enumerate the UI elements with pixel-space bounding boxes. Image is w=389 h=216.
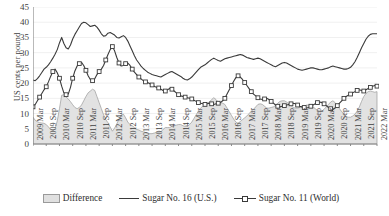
legend-item-difference[interactable]: Difference — [43, 193, 103, 203]
x-tick-2019-mar: 2019 Mar — [301, 108, 310, 148]
legend-label-sugar-no-16-us: Sugar No. 16 (U.S.) — [142, 193, 216, 203]
x-tick-2012-mar: 2012 Mar — [115, 108, 124, 148]
legend-label-difference: Difference — [63, 193, 103, 203]
legend-label-sugar-no-11-world: Sugar No. 11 (World) — [259, 193, 340, 203]
chart-legend: Difference Sugar No. 16 (U.S.) Sugar No.… — [0, 193, 382, 203]
legend-item-sugar-no-11-world[interactable]: Sugar No. 11 (World) — [234, 193, 340, 203]
x-tick-2018-mar: 2018 Mar — [274, 108, 283, 148]
x-tick-2010-mar: 2010 Mar — [62, 108, 71, 148]
line-marker-swatch-icon — [234, 195, 256, 202]
x-tick-2015-mar: 2015 Mar — [195, 108, 204, 148]
x-tick-2010-sep: 2010 Sep — [76, 108, 85, 148]
legend-item-sugar-no-16-us[interactable]: Sugar No. 16 (U.S.) — [119, 193, 216, 203]
x-tick-2012-sep: 2012 Sep — [129, 108, 138, 148]
x-tick-2009-sep: 2009 Sep — [49, 108, 58, 148]
x-tick-2011-sep: 2011 Sep — [102, 108, 111, 148]
x-tick-2020-mar: 2020 Mar — [327, 108, 336, 148]
x-tick-2021-sep: 2021 Sep — [367, 108, 376, 148]
x-tick-2016-mar: 2016 Mar — [221, 108, 230, 148]
x-tick-2017-mar: 2017 Mar — [248, 108, 257, 148]
x-tick-2016-sep: 2016 Sep — [234, 108, 243, 148]
x-tick-2021-mar: 2021 Mar — [354, 108, 363, 148]
x-tick-2011-mar: 2011 Mar — [89, 108, 98, 148]
x-tick-2015-sep: 2015 Sep — [208, 108, 217, 148]
x-tick-2009-mar: 2009 Mar — [36, 108, 45, 148]
x-tick-2013-sep: 2013 Sep — [155, 108, 164, 148]
x-tick-2020-sep: 2020 Sep — [340, 108, 349, 148]
area-swatch-icon — [43, 194, 60, 203]
x-tick-2014-mar: 2014 Mar — [168, 108, 177, 148]
x-tick-2019-sep: 2019 Sep — [314, 108, 323, 148]
line-swatch-icon — [119, 198, 139, 199]
x-tick-2022-mar: 2022 Mar — [380, 108, 389, 148]
x-tick-2017-sep: 2017 Sep — [261, 108, 270, 148]
x-tick-2018-sep: 2018 Sep — [287, 108, 296, 148]
x-tick-2013-mar: 2013 Mar — [142, 108, 151, 148]
x-tick-2014-sep: 2014 Sep — [182, 108, 191, 148]
